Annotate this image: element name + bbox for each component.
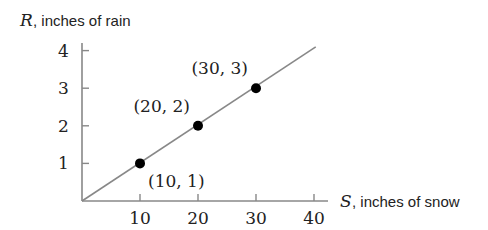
x-tick-label: 40 — [303, 208, 325, 228]
y-axis-label: , inches of rain — [33, 12, 131, 29]
y-tick-label: 2 — [58, 116, 69, 136]
rain-vs-snow-chart: R , inches of rain 1234 10203040 (10, 1)… — [0, 0, 488, 230]
x-axis-var: S — [340, 191, 352, 211]
data-points: (10, 1)(20, 2)(30, 3) — [133, 58, 261, 191]
y-ticks: 1234 — [58, 41, 89, 174]
x-ticks: 10203040 — [129, 194, 325, 228]
x-tick-label: 30 — [245, 208, 267, 228]
data-point-label: (10, 1) — [148, 171, 205, 191]
data-point — [135, 158, 145, 168]
data-point-label: (20, 2) — [133, 96, 190, 116]
data-point-label: (30, 3) — [191, 58, 248, 78]
y-tick-label: 1 — [58, 153, 69, 173]
data-point — [193, 121, 203, 131]
data-point — [251, 83, 261, 93]
y-tick-label: 3 — [58, 78, 69, 98]
x-axis-label: , inches of snow — [352, 193, 460, 210]
y-axis-var: R — [19, 10, 33, 30]
x-tick-label: 20 — [187, 208, 209, 228]
x-tick-label: 10 — [129, 208, 151, 228]
y-tick-label: 4 — [58, 41, 69, 61]
